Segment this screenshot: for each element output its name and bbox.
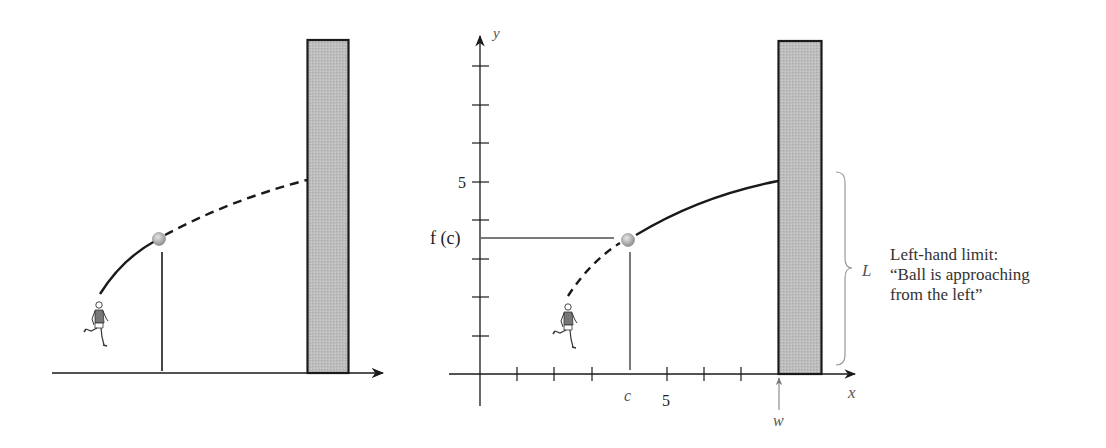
x-axis-label: x bbox=[847, 383, 856, 402]
right-panel: y x 5 5 c f (c) w L bbox=[430, 25, 871, 429]
L-label: L bbox=[861, 261, 871, 280]
left-panel bbox=[52, 40, 383, 373]
caption-line-1: Left-hand limit: bbox=[890, 245, 1100, 265]
ball-path-dashed-right bbox=[568, 243, 620, 296]
runner-right bbox=[553, 304, 577, 348]
wall-right bbox=[779, 41, 822, 374]
ball-path-solid-right bbox=[636, 181, 778, 235]
runner-left bbox=[84, 302, 108, 346]
diagram-canvas: y x 5 5 c f (c) w L bbox=[0, 0, 1106, 448]
x-tick-label-5: 5 bbox=[662, 392, 670, 409]
ball-right bbox=[622, 234, 635, 247]
c-label: c bbox=[624, 387, 631, 404]
ball-left bbox=[153, 233, 166, 246]
f-of-c-label: f (c) bbox=[430, 228, 460, 249]
ball-path-solid-left bbox=[100, 241, 155, 294]
caption-line-3: from the left” bbox=[890, 285, 1100, 305]
w-label: w bbox=[773, 412, 784, 429]
ball-path-dashed-left bbox=[165, 180, 307, 235]
y-axis-label: y bbox=[491, 25, 500, 41]
L-brace bbox=[836, 172, 852, 365]
y-tick-label-5: 5 bbox=[458, 174, 466, 191]
caption-line-2: “Ball is approaching bbox=[890, 265, 1100, 285]
wall-left bbox=[308, 40, 349, 373]
left-hand-limit-caption: Left-hand limit: “Ball is approaching fr… bbox=[890, 245, 1100, 305]
